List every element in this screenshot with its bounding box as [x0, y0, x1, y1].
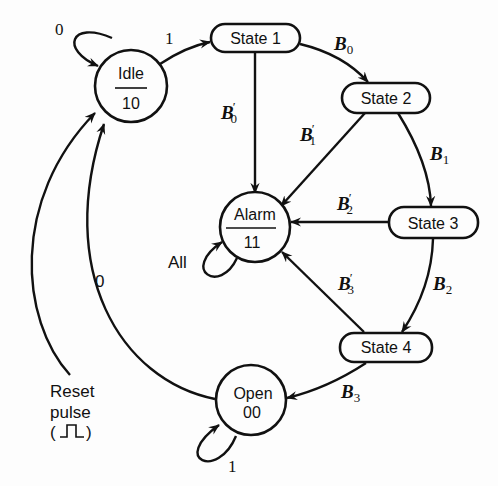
label-idle-state1: 1: [165, 29, 174, 48]
node-open-name: Open: [233, 385, 272, 402]
node-state4-name: State 4: [361, 339, 412, 356]
reset-line1: Reset: [50, 382, 95, 401]
node-alarm-output: 11: [244, 234, 261, 251]
node-state3-name: State 3: [408, 215, 459, 232]
node-state2-name: State 2: [361, 90, 412, 107]
label-state1-state2: B0: [333, 33, 353, 57]
node-idle-output: 10: [122, 95, 140, 112]
node-alarm: Alarm 11: [220, 192, 290, 262]
pulse-waveform-icon: [60, 425, 84, 437]
label-state2-alarm: B′1: [299, 121, 316, 148]
edge-state3-to-state4: [402, 239, 433, 332]
label-idle-self: 0: [55, 20, 64, 39]
node-state1-name: State 1: [230, 30, 281, 47]
edge-open-to-idle: [87, 124, 215, 399]
node-state4: State 4: [340, 333, 432, 362]
edge-state2-to-alarm: [281, 113, 365, 206]
label-state4-alarm: B′3: [337, 270, 354, 297]
node-alarm-name: Alarm: [234, 206, 276, 223]
node-idle-name: Idle: [118, 65, 144, 82]
label-state3-alarm: B′2: [336, 190, 353, 217]
node-open: Open 00: [216, 365, 286, 435]
node-state1: State 1: [211, 24, 300, 52]
state-diagram: Idle 10 State 1 State 2 Alarm 11 State 3…: [0, 0, 498, 486]
node-state2: State 2: [342, 83, 430, 113]
label-state4-open: B3: [340, 381, 360, 405]
label-open-self: 1: [228, 457, 237, 476]
node-idle: Idle 10: [95, 50, 167, 122]
edge-open-self: [198, 425, 236, 461]
reset-paren-close: ): [86, 423, 92, 442]
label-alarm-self: All: [168, 253, 187, 272]
label-open-idle: 0: [95, 272, 104, 291]
reset-line2: pulse: [50, 403, 91, 422]
label-state1-alarm: B′0: [220, 99, 237, 126]
node-state3: State 3: [389, 207, 478, 238]
edge-state2-to-state3: [398, 113, 431, 206]
label-state3-state4: B2: [432, 273, 452, 297]
node-open-output: 00: [243, 404, 261, 421]
reset-paren-open: (: [50, 423, 56, 442]
label-state2-state3: B1: [429, 143, 449, 167]
edge-reset-to-idle: [32, 113, 95, 375]
reset-pulse-label: Reset pulse ( ): [50, 382, 95, 442]
